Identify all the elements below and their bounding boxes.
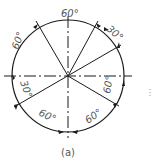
figure-caption: (a) (61, 147, 75, 158)
angle-label-left: 30° (18, 79, 34, 99)
angle-label-lower-left: 60° (37, 107, 58, 124)
angle-label-top: 60° (61, 8, 79, 19)
circle-division-diagram: 60° 30° 60° 60° 60° 30° 60° (a) (0, 0, 152, 163)
edge-artifact (149, 89, 151, 96)
angle-label-lower-right: 60° (83, 106, 104, 125)
angle-label-right: 60° (101, 75, 115, 94)
radial-line-60 (68, 21, 98, 76)
angle-label-upper-right: 30° (105, 23, 126, 43)
angle-label-upper-left: 60° (10, 30, 26, 50)
radial-line-120 (36, 21, 68, 76)
